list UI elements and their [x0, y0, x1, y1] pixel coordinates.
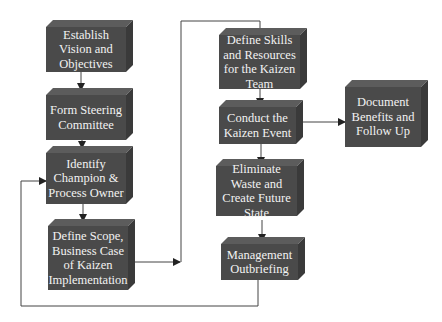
box-side-bevel: [126, 20, 133, 72]
node-label: Conduct the Kaizen Event: [219, 107, 296, 144]
kaizen-flowchart: Establish Vision and Objectives Form Ste…: [0, 0, 442, 322]
box-side-bevel: [298, 237, 305, 280]
box-side-bevel: [297, 159, 304, 216]
box-top-bevel: [46, 20, 133, 27]
box-side-bevel: [126, 88, 133, 140]
box-top-bevel: [221, 237, 305, 244]
box-side-bevel: [296, 100, 303, 144]
node-label: Eliminate Waste and Create Future State: [216, 166, 297, 216]
box-side-bevel: [126, 146, 133, 204]
box-side-bevel: [300, 28, 307, 89]
box-top-bevel: [48, 219, 135, 226]
box-side-bevel: [128, 219, 135, 290]
node-label: Define Skills and Resources for the Kaiz…: [219, 35, 300, 89]
box-top-bevel: [345, 80, 428, 87]
box-top-bevel: [46, 88, 133, 95]
box-side-bevel: [421, 80, 428, 147]
node-label: Establish Vision and Objectives: [46, 27, 126, 72]
node-label: Form Steering Committee: [46, 95, 126, 140]
node-label: Document Benefits and Follow Up: [345, 87, 421, 147]
box-top-bevel: [46, 146, 133, 153]
box-top-bevel: [219, 100, 303, 107]
node-label: Define Scope, Business Case of Kaizen Im…: [48, 226, 128, 290]
node-label: Identify Champion & Process Owner: [46, 153, 126, 204]
node-label: Management Outbriefing: [221, 244, 298, 280]
